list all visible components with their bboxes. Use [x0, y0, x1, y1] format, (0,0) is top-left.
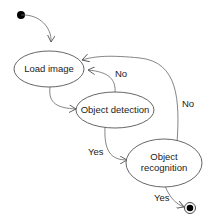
- edge-label-no-detect: No: [115, 68, 127, 79]
- edge-start-load: [21, 15, 51, 42]
- state-load-image-label: Load image: [24, 63, 74, 74]
- edge-load-detect: [50, 87, 76, 109]
- edge-label-yes-recog: Yes: [154, 192, 170, 203]
- edge-label-no-recog: No: [182, 98, 194, 109]
- state-object-recognition-label-2: recognition: [141, 162, 187, 173]
- final-state-dot: [187, 205, 194, 212]
- state-diagram: Load image Object detection Object recog…: [0, 0, 212, 223]
- edge-label-yes-detect: Yes: [88, 146, 104, 157]
- edge-detect-recog: [105, 127, 127, 160]
- state-object-detection-label: Object detection: [81, 104, 150, 115]
- edge-detect-load: [88, 70, 115, 93]
- state-object-recognition-label-1: Object: [150, 151, 178, 162]
